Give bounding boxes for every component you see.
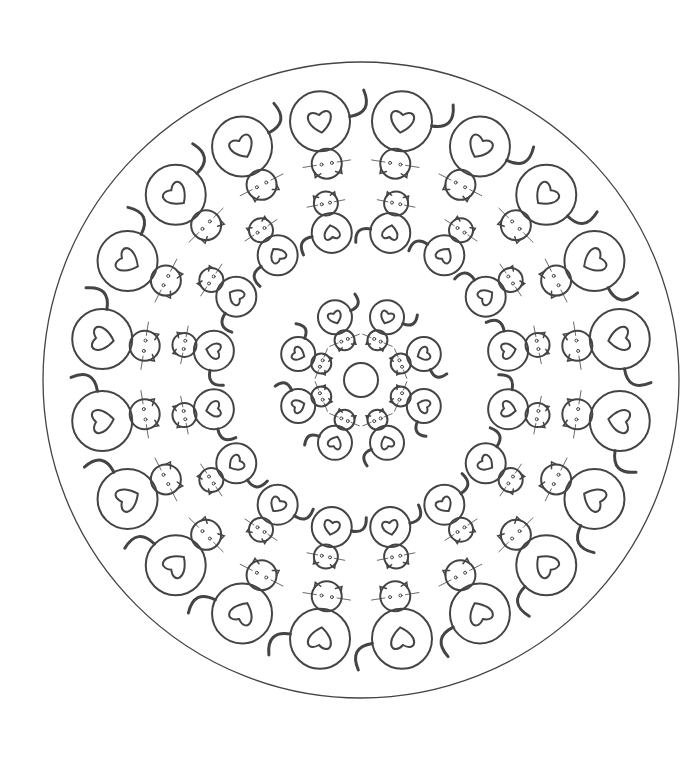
cat-eye <box>389 161 392 164</box>
cat-eye <box>320 594 323 597</box>
heart-icon <box>161 180 192 211</box>
cat-eye <box>318 392 321 395</box>
cat-eye <box>464 186 467 189</box>
cat-body <box>312 507 352 547</box>
cat-eye <box>167 483 170 486</box>
cat-tail <box>430 370 446 378</box>
heart-icon <box>476 286 496 307</box>
cat-tail <box>410 505 421 523</box>
cat-body <box>590 391 650 451</box>
heart-icon <box>226 286 246 307</box>
cat-tail <box>432 105 454 126</box>
heart-icon <box>415 397 431 414</box>
heart-icon <box>228 598 258 627</box>
cat-eye <box>142 349 145 352</box>
cat-eye <box>507 275 510 278</box>
cat-ear <box>380 587 386 593</box>
cat-body <box>72 309 132 369</box>
cat-ear <box>336 587 342 593</box>
cat-whisker <box>146 322 148 335</box>
cat-tail <box>455 273 475 280</box>
cat-whisker <box>303 165 316 167</box>
cat-head <box>130 399 160 429</box>
cat-body <box>407 389 441 423</box>
cat-eye <box>575 339 578 342</box>
cat-whisker <box>534 423 536 434</box>
cat-eye <box>329 201 332 204</box>
cat-whisker <box>303 593 316 595</box>
cat-eye <box>379 340 382 343</box>
cat-body <box>450 583 510 643</box>
cat-head <box>249 218 273 242</box>
cat-ear <box>149 399 155 405</box>
cat-eye <box>321 359 324 362</box>
cat-whisker <box>334 200 345 202</box>
cat-eye <box>552 274 555 277</box>
heart-icon <box>114 483 143 513</box>
heart-icon <box>501 400 518 418</box>
heart-icon <box>607 408 631 434</box>
cat-tail <box>254 266 261 286</box>
cat-eye <box>537 409 540 412</box>
cat-body <box>564 231 624 291</box>
cat-head <box>541 464 571 494</box>
cat-tail <box>499 375 513 390</box>
cat-eye <box>184 418 187 421</box>
cat-whisker <box>307 553 318 555</box>
cat-head <box>151 266 181 296</box>
cat-body <box>488 389 528 429</box>
cat-head <box>314 545 338 569</box>
cat-whisker <box>404 205 415 207</box>
heart-icon <box>291 346 307 363</box>
cat-whisker <box>406 593 419 595</box>
cat-tail <box>356 228 371 242</box>
cat-eye <box>398 359 401 362</box>
cat-body <box>488 331 528 371</box>
cat-eye <box>379 417 382 420</box>
cat-whisker <box>372 598 385 600</box>
cat-whisker <box>372 160 385 162</box>
cat-eye <box>557 284 560 287</box>
heart-icon <box>607 326 631 352</box>
cat-head <box>526 333 550 357</box>
cat-body <box>372 609 432 669</box>
cat-tail <box>364 449 372 465</box>
cat-eye <box>390 201 393 204</box>
cat-eye <box>373 337 376 340</box>
cat-ear <box>149 355 155 361</box>
cat-head <box>445 560 475 590</box>
cat-body <box>72 391 132 451</box>
heart-icon <box>389 110 415 134</box>
heart-icon <box>389 626 415 650</box>
cat-tail <box>351 294 359 310</box>
cat-head <box>312 149 342 179</box>
cat-eye <box>330 596 333 599</box>
cat-eye <box>401 365 404 368</box>
cat-eye <box>518 530 521 533</box>
cat-tail <box>301 237 312 255</box>
outer-circle <box>43 62 679 698</box>
cat-whisker <box>377 558 388 560</box>
cat-tail <box>247 480 267 487</box>
cat-whisker <box>579 391 581 404</box>
heart-icon <box>434 245 455 265</box>
heart-icon <box>226 453 246 474</box>
cat-whisker <box>579 356 581 369</box>
cat-eye <box>201 530 204 533</box>
cat-whisker <box>186 423 188 434</box>
heart-icon <box>91 408 115 434</box>
cat-eye <box>552 483 555 486</box>
heart-icon <box>307 626 333 650</box>
cat-head <box>445 170 475 200</box>
cat-head <box>449 518 473 542</box>
cat-body <box>194 331 234 371</box>
cat-whisker <box>307 205 318 207</box>
cat-eye <box>518 227 521 230</box>
cat-eye <box>255 186 258 189</box>
cat-head <box>499 268 523 292</box>
cat-body <box>281 389 315 423</box>
cat-eye <box>399 203 402 206</box>
cat-whisker <box>406 165 419 167</box>
cat-tail <box>518 586 530 616</box>
heart-icon <box>205 342 222 360</box>
